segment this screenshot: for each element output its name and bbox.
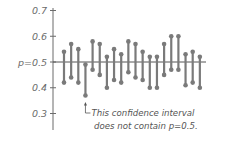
confidence-interval bbox=[112, 47, 117, 82]
confidence-interval-chart: 0.70.6p=0.50.40.3 This confidence interv… bbox=[0, 0, 226, 145]
confidence-interval bbox=[198, 55, 203, 90]
confidence-interval bbox=[140, 49, 145, 82]
y-tick-label: p=0.5 bbox=[17, 57, 47, 68]
confidence-interval bbox=[83, 62, 88, 97]
confidence-interval bbox=[176, 34, 181, 72]
confidence-interval bbox=[119, 52, 124, 85]
annotation-line-2: does not contain p=0.5. bbox=[94, 121, 198, 131]
confidence-interval bbox=[183, 52, 188, 87]
confidence-interval bbox=[155, 55, 160, 90]
y-tick-label: 0.4 bbox=[32, 82, 47, 93]
confidence-interval bbox=[62, 49, 67, 84]
annotation-arrow-icon bbox=[85, 104, 90, 113]
confidence-interval bbox=[169, 34, 174, 72]
confidence-interval bbox=[97, 42, 102, 77]
y-tick-label: 0.3 bbox=[32, 108, 47, 119]
confidence-interval bbox=[148, 55, 153, 90]
confidence-interval bbox=[133, 42, 138, 80]
confidence-interval bbox=[190, 49, 195, 84]
confidence-interval bbox=[90, 39, 95, 72]
annotation-line-1: This confidence interval bbox=[91, 108, 195, 118]
y-tick-label: 0.6 bbox=[32, 31, 47, 42]
y-tick-label: 0.7 bbox=[32, 5, 47, 16]
confidence-interval bbox=[126, 39, 131, 74]
confidence-interval bbox=[76, 47, 81, 85]
confidence-intervals bbox=[62, 34, 202, 98]
arrowhead-icon bbox=[84, 102, 87, 106]
confidence-interval bbox=[69, 42, 74, 80]
confidence-interval bbox=[162, 42, 167, 77]
annotation: This confidence interval does not contai… bbox=[84, 102, 198, 131]
y-axis-ticks: 0.70.6p=0.50.40.3 bbox=[17, 5, 56, 119]
confidence-interval bbox=[105, 55, 110, 90]
